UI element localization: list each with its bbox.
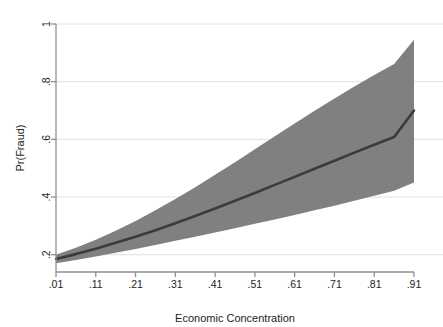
y-tick-labels: .2.4.6.81 (40, 21, 52, 259)
x-tick-labels: .01.11.21.31.41.51.61.71.81.91 (49, 278, 422, 290)
y-tick-label-1: 1 (40, 21, 52, 27)
x-tick-label-.11: .11 (89, 278, 103, 290)
x-tick-label-.91: .91 (407, 278, 422, 290)
x-tick-label-.31: .31 (168, 278, 183, 290)
x-axis-title: Economic Concentration (175, 312, 295, 324)
x-tick-label-.81: .81 (367, 278, 382, 290)
x-tick-label-.01: .01 (49, 278, 64, 290)
x-tick-label-.51: .51 (248, 278, 263, 290)
y-tick-label-.6: .6 (40, 135, 52, 144)
x-tick-label-.61: .61 (287, 278, 302, 290)
x-tick-label-.71: .71 (327, 278, 342, 290)
y-axis-title: Pr(Fraud) (14, 124, 26, 171)
prediction-plot: .01.11.21.31.41.51.61.71.81.91 .2.4.6.81… (0, 0, 443, 327)
x-tick-label-.41: .41 (208, 278, 223, 290)
y-tick-label-.4: .4 (40, 192, 52, 201)
x-tick-label-.21: .21 (128, 278, 143, 290)
y-tick-label-.2: .2 (40, 250, 52, 259)
y-tick-label-.8: .8 (40, 77, 52, 86)
chart-figure: .01.11.21.31.41.51.61.71.81.91 .2.4.6.81… (0, 0, 443, 327)
